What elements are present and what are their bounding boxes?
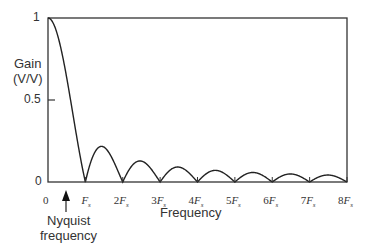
x-tick-label: 7Fs <box>301 194 316 209</box>
y-tick-1: 1 <box>33 10 40 24</box>
y-tick-0: 0 <box>35 174 42 188</box>
x-tick-label: 5Fs <box>226 194 241 209</box>
y-tick-0.5: 0.5 <box>24 92 41 106</box>
x-tick-label: 6Fs <box>263 194 278 209</box>
x-axis-label: Frequency <box>160 205 221 220</box>
y-axis-label-line2: (V/V) <box>13 71 43 86</box>
x-tick-label: Fs <box>81 194 90 209</box>
nyquist-arrow-head <box>62 190 70 201</box>
x-tick-0: 0 <box>43 194 49 206</box>
x-tick-label: 8Fs <box>338 194 353 209</box>
x-tick-label: 2Fs <box>114 194 129 209</box>
gain-curve <box>48 18 347 182</box>
nyquist-label-line2: frequency <box>40 228 97 243</box>
y-axis-label-line1: Gain <box>14 56 41 71</box>
nyquist-label-line1: Nyquist <box>47 213 90 228</box>
